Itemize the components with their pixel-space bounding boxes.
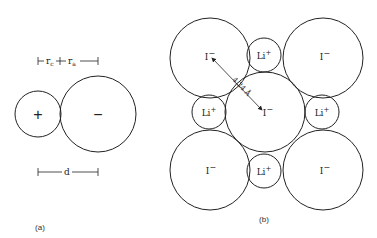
lithium-label: Li+ [257,165,272,177]
anion-sign: − [93,106,102,123]
iodide-label: I− [263,105,273,118]
d-label: d [64,167,70,177]
lithium-label: Li+ [257,49,272,61]
caption-a: (a) [35,223,45,232]
iodide-label: I− [206,163,216,176]
lithium-label: Li+ [315,106,330,118]
ionic-radii-diagram: + − rc ra d (a) [0,0,377,238]
iodide-label: I− [320,49,330,62]
lithium-label: Li+ [202,106,217,118]
distance-arrow: 4.24 Å [212,58,262,110]
panel-b: I− I− I− I− I− Li+ Li+ Li+ Li+ 4.24 Å (b… [170,18,363,224]
distance-dimension: d [38,166,98,177]
iodide-label: I− [320,163,330,176]
caption-b: (b) [259,215,269,224]
radius-dimension: rc ra [38,55,98,67]
panel-a: + − rc ra d (a) [15,55,136,232]
cation-sign: + [33,106,42,123]
